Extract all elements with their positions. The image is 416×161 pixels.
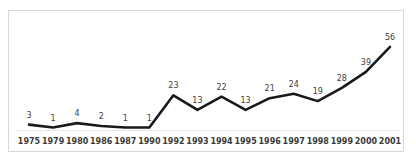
data-point-label: 3: [26, 111, 31, 120]
x-tick-label: 1999: [331, 137, 353, 146]
x-tick-label: 1993: [186, 137, 208, 146]
x-tick-label: 1998: [307, 137, 329, 146]
data-point-label: 1: [147, 114, 152, 123]
data-point-label: 1: [123, 114, 128, 123]
x-tick-label: 1986: [90, 137, 112, 146]
data-point-label: 28: [337, 74, 347, 83]
data-point-label: 13: [241, 96, 251, 105]
x-tick-label: 1995: [234, 137, 256, 146]
x-tick-label: 1992: [162, 137, 184, 146]
data-point-label: 21: [265, 84, 275, 93]
x-tick-label: 1987: [114, 137, 136, 146]
data-point-label: 1: [51, 114, 56, 123]
x-tick-label: 1996: [259, 137, 281, 146]
data-point-label: 22: [216, 83, 226, 92]
series-line: [29, 47, 390, 128]
x-tick-label: 1994: [210, 137, 232, 146]
x-tick-label: 2001: [379, 137, 401, 146]
data-point-label: 13: [192, 96, 202, 105]
data-point-label: 4: [75, 109, 80, 118]
data-point-label: 39: [361, 58, 371, 67]
data-point-label: 19: [313, 87, 323, 96]
x-tick-label: 1997: [283, 137, 305, 146]
chart-frame: 31421123132213212419283956 1975197919801…: [8, 10, 404, 152]
x-tick-label: 1979: [42, 137, 64, 146]
x-tick-label: 1990: [138, 137, 160, 146]
x-tick-label: 2000: [355, 137, 377, 146]
plot-area: 31421123132213212419283956 1975197919801…: [9, 11, 405, 153]
x-tick-label: 1975: [18, 137, 40, 146]
data-point-label: 24: [289, 80, 299, 89]
data-point-label: 56: [385, 33, 395, 42]
data-point-label: 23: [168, 81, 178, 90]
x-tick-label: 1980: [66, 137, 88, 146]
data-point-label: 2: [99, 112, 104, 121]
